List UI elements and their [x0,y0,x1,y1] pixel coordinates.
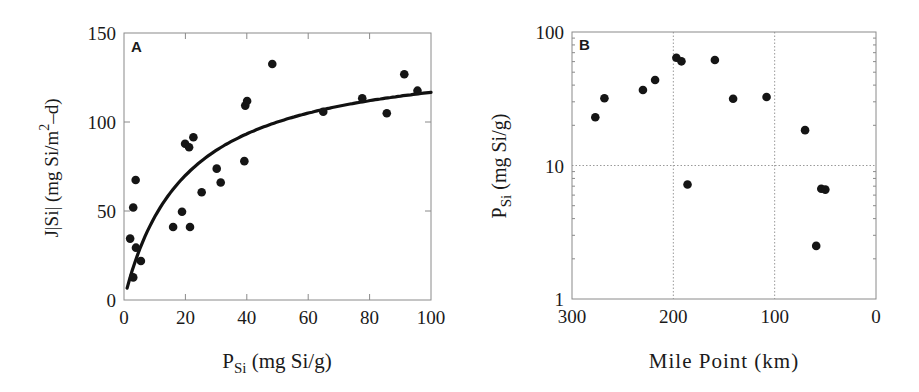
data-point [600,94,609,103]
x-tick-label: 100 [760,306,789,327]
chart-b-gridlines [572,32,876,299]
data-point [216,178,225,187]
y-tick-label: 1 [555,289,565,310]
data-point [132,243,141,252]
chart-a-fit-curve [127,92,431,288]
data-point [801,126,810,135]
data-point [683,180,692,189]
chart-a-tick-labels: 020406080100050100150 [88,23,446,328]
data-point [382,109,391,118]
x-tick-label: 80 [360,307,379,328]
chart-b-points [591,53,830,250]
data-point [197,188,206,197]
x-tick-label: 100 [417,307,446,328]
chart-b-x-axis-title: Mile Point (km) [649,349,799,373]
x-tick-label: 40 [237,307,256,328]
data-point [189,133,198,142]
y-tick-label: 100 [536,22,565,43]
data-point [639,86,648,95]
data-point [129,203,138,212]
data-point [413,86,422,95]
x-tick-label: 200 [659,306,688,327]
x-tick-label: 60 [299,307,318,328]
data-point [268,60,277,69]
data-point [240,157,249,166]
y-tick-label: 150 [88,23,117,44]
data-point [129,273,138,282]
x-tick-label: 20 [176,307,195,328]
data-point [212,164,221,173]
data-point [186,223,195,232]
y-tick-label: 10 [545,156,564,177]
chart-a-y-axis-title: J|Si| (mg Si/m2–d) [37,98,63,237]
data-point [169,223,178,232]
data-point [243,97,252,106]
figure: 020406080100050100150 A PSi (mg Si/g) J|… [0,0,919,392]
data-point [711,56,720,65]
chart-b-y-axis-title: PSi (mg Si/g) [488,114,514,219]
chart-b-tick-labels: 3002001000110100 [536,22,881,327]
data-point [762,93,771,102]
data-point [137,257,146,266]
y-tick-label: 100 [88,112,117,133]
chart-a-ticks [124,33,431,300]
data-point [591,113,600,122]
data-point [729,94,738,103]
data-point [812,242,821,251]
data-point [821,185,830,194]
x-tick-label: 0 [119,307,129,328]
chart-a-points [126,60,422,282]
x-tick-label: 0 [871,306,881,327]
chart-a-panel-label: A [131,38,142,55]
data-point [185,143,194,152]
data-point [126,234,135,243]
data-point [131,176,140,185]
figure-canvas: 020406080100050100150 A PSi (mg Si/g) J|… [0,0,919,392]
chart-b-ticks [572,38,876,259]
data-point [178,207,187,216]
chart-b-panel-label: B [579,36,590,53]
data-point [319,107,328,116]
y-tick-label: 50 [97,201,116,222]
data-point [400,70,409,79]
chart-a: 020406080100050100150 A PSi (mg Si/g) J|… [37,23,445,376]
chart-a-x-axis-title: PSi (mg Si/g) [222,349,331,376]
chart-a-frame [124,33,431,300]
data-point [358,94,367,103]
data-point [651,76,660,85]
y-tick-label: 0 [107,290,117,311]
chart-b: 3002001000110100 B Mile Point (km) PSi (… [488,22,881,373]
data-point [677,57,686,66]
